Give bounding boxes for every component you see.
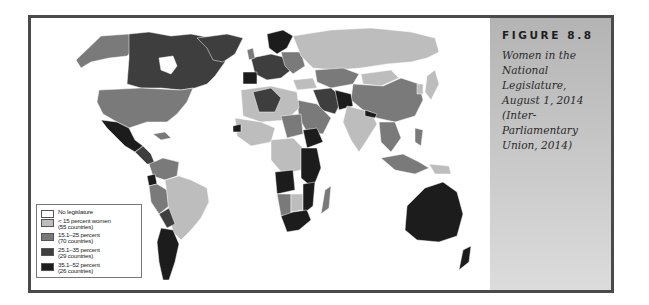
legend-item-lt15: < 15 percent women (55 countries) [41, 218, 111, 231]
legend-swatch [41, 233, 54, 241]
legend-count: (55 countries) [58, 223, 93, 230]
region-east-africa [301, 148, 321, 188]
region-alaska [76, 34, 135, 68]
region-southeast-asia [379, 122, 401, 152]
legend-swatch [41, 263, 54, 271]
region-australia [405, 182, 463, 242]
legend-item-25-35: 25.1–35 percent (29 countries) [41, 247, 100, 260]
legend-swatch [41, 219, 54, 227]
region-caribbean [153, 132, 171, 140]
region-iberia [243, 72, 257, 84]
world-map: No legislature < 15 percent women (55 co… [31, 18, 490, 290]
region-central-africa [271, 138, 305, 174]
legend-swatch [41, 248, 54, 256]
legend-swatch [41, 210, 54, 218]
legend-label: No legislature [58, 209, 93, 215]
region-japan [425, 70, 439, 100]
caption-line: (Inter-Parliamentary [502, 108, 610, 138]
legend-count: (70 countries) [58, 237, 93, 244]
legend-text-block: 25.1–35 percent (29 countries) [58, 247, 100, 260]
legend-item-15-25: 15.1–25 percent (70 countries) [41, 232, 100, 245]
legend-text-block: 15.1–25 percent (70 countries) [58, 232, 100, 245]
region-namibia [277, 194, 291, 216]
region-turkey [293, 78, 317, 90]
region-angola [275, 170, 295, 194]
caption-line: Union, 2014) [502, 138, 610, 153]
region-kazakhstan [315, 68, 359, 88]
region-senegal [233, 124, 241, 132]
region-madagascar [321, 186, 331, 214]
caption-line: National Legislature, [502, 63, 610, 93]
legend-text-block: 35.1–52 percent (26 countries) [58, 262, 100, 275]
region-scandinavia [267, 30, 293, 54]
caption-line: August 1, 2014 [502, 93, 610, 108]
region-philippines [415, 128, 423, 146]
figure-caption: Women in the National Legislature, Augus… [502, 48, 610, 153]
region-botswana [291, 194, 303, 212]
legend-text-block: < 15 percent women (55 countries) [58, 218, 111, 231]
region-mozambique [303, 182, 315, 214]
legend-count: (29 countries) [58, 252, 93, 259]
region-papua [429, 164, 451, 174]
region-russia [293, 28, 439, 70]
map-legend: No legislature < 15 percent women (55 co… [36, 204, 142, 278]
legend-count: (26 countries) [58, 267, 93, 274]
legend-item-35-52: 35.1–52 percent (26 countries) [41, 262, 100, 275]
figure-number: FIGURE 8.8 [502, 29, 594, 41]
region-argentina [157, 228, 179, 280]
region-indonesia [381, 154, 429, 174]
region-korea [417, 84, 423, 94]
region-uk [247, 48, 255, 60]
caption-line: Women in the [502, 48, 610, 63]
region-new-zealand [459, 246, 471, 270]
figure-caption-panel: FIGURE 8.8 Women in the National Legisla… [490, 18, 611, 290]
figure-frame: No legislature < 15 percent women (55 co… [28, 15, 614, 293]
region-sudan [281, 114, 303, 138]
